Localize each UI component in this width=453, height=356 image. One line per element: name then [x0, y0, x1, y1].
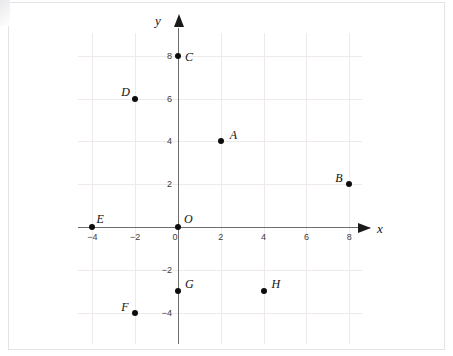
y-axis-label: y — [155, 14, 161, 27]
data-point-label-a: A — [230, 129, 237, 141]
data-point-label-d: D — [121, 86, 130, 98]
origin-dot — [175, 224, 181, 230]
gridline-horizontal — [78, 99, 362, 100]
y-axis-arrowhead-icon — [174, 14, 184, 27]
x-tick-label: 6 — [298, 233, 314, 242]
y-tick-label: 4 — [154, 137, 172, 146]
data-point-label-f: F — [121, 301, 128, 313]
y-tick-label: −2 — [154, 266, 172, 275]
coordinate-plane-figure: y x −4−2024688642−2−4 O ABCDEFGH — [0, 0, 453, 356]
y-tick-label: 8 — [154, 52, 172, 61]
data-point-g — [175, 288, 181, 294]
gridline-horizontal — [78, 56, 362, 57]
data-point-d — [132, 96, 138, 102]
x-axis-label: x — [377, 222, 383, 235]
gridline-vertical — [306, 33, 307, 344]
plot-area: y x −4−2024688642−2−4 O ABCDEFGH — [0, 0, 453, 356]
y-tick-label: 6 — [154, 95, 172, 104]
x-tick-label-0: 0 — [168, 233, 182, 242]
y-axis-line — [178, 28, 179, 344]
x-tick-label: 4 — [256, 233, 272, 242]
origin-label: O — [184, 213, 193, 225]
gridline-vertical — [221, 33, 222, 344]
x-tick-label: 8 — [341, 233, 357, 242]
gridline-horizontal — [78, 184, 362, 185]
data-point-e — [89, 224, 95, 230]
data-point-label-h: H — [272, 278, 281, 290]
x-axis-line — [78, 227, 370, 228]
gridline-vertical — [349, 33, 350, 344]
data-point-b — [346, 181, 352, 187]
x-tick-label: 2 — [213, 233, 229, 242]
y-tick-label: 2 — [154, 180, 172, 189]
x-tick-label: −4 — [84, 233, 100, 242]
x-axis-arrowhead-icon — [358, 223, 371, 233]
gridline-vertical — [135, 33, 136, 344]
data-point-f — [132, 310, 138, 316]
gridline-vertical — [264, 33, 265, 344]
x-tick-label: −2 — [127, 233, 143, 242]
data-point-h — [261, 288, 267, 294]
data-point-label-c: C — [185, 51, 193, 63]
data-point-label-b: B — [335, 172, 342, 184]
gridline-vertical — [92, 33, 93, 344]
data-point-c — [175, 53, 181, 59]
y-tick-label: −4 — [154, 309, 172, 318]
data-point-a — [218, 138, 224, 144]
data-point-label-e: E — [96, 213, 103, 225]
data-point-label-g: G — [185, 278, 194, 290]
gridline-horizontal — [78, 270, 362, 271]
